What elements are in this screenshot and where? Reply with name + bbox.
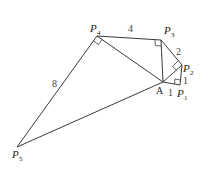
svg-text:2: 2 [190, 69, 194, 77]
svg-text:P: P [163, 24, 171, 36]
svg-text:3: 3 [171, 31, 175, 39]
length-p2-p3: 2 [176, 46, 181, 57]
spiral-right-triangles-diagram: P 4 P 3 P 2 P 1 A P 5 4 2 1 1 8 [0, 0, 209, 175]
label-p3: P 3 [163, 24, 175, 39]
length-a-p1: 1 [168, 87, 173, 98]
label-p4: P 4 [89, 22, 101, 37]
length-p3-p4: 4 [128, 23, 133, 34]
segment-p4-p5 [17, 36, 97, 147]
svg-text:P: P [182, 62, 190, 74]
svg-text:P: P [11, 148, 19, 160]
label-a: A [156, 85, 164, 96]
segment-p1-p2 [180, 65, 182, 85]
svg-text:5: 5 [19, 155, 23, 163]
length-p1-p2: 1 [183, 75, 188, 86]
segment-p3-p4 [97, 36, 161, 40]
label-p1: P 1 [176, 87, 188, 102]
length-p4-p5: 8 [52, 78, 57, 89]
right-angle-p3-icon [155, 40, 161, 46]
svg-text:P: P [89, 22, 97, 34]
svg-text:A: A [156, 85, 164, 96]
segment-a-p4 [97, 36, 163, 82]
label-p5: P 5 [11, 148, 23, 163]
segment-a-p5 [17, 82, 163, 147]
svg-text:4: 4 [97, 29, 101, 37]
segment-a-p3 [161, 40, 163, 82]
right-angle-p1-icon [175, 79, 181, 84]
svg-text:P: P [176, 87, 184, 99]
segment-a-p1 [163, 82, 180, 85]
right-angle-p4-icon [94, 40, 103, 45]
svg-text:1: 1 [184, 94, 188, 102]
